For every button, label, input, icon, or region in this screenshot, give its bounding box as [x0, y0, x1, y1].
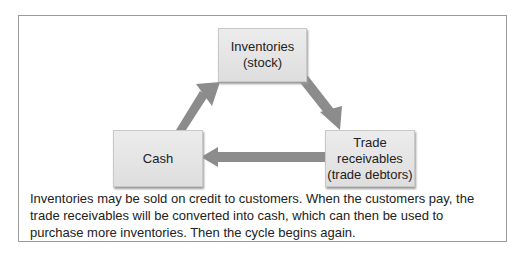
node-trade-receivables: Trade receivables (trade debtors) [325, 130, 415, 187]
node-cash: Cash [113, 130, 203, 187]
arrow-cash-to-inventories [176, 82, 220, 130]
arrow-trade-to-cash [201, 147, 325, 167]
node-trade-receivables-label: Trade receivables (trade debtors) [327, 135, 412, 183]
node-inventories-label: Inventories (stock) [231, 39, 295, 71]
node-cash-label: Cash [143, 151, 173, 167]
node-inventories: Inventories (stock) [218, 28, 307, 82]
arrow-inventories-to-trade [298, 76, 342, 130]
figure-caption: Inventories may be sold on credit to cus… [30, 190, 500, 241]
